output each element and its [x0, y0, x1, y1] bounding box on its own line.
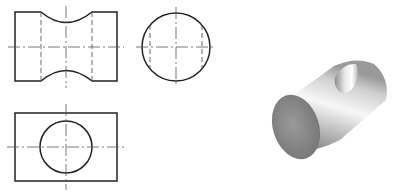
top-view	[7, 104, 125, 190]
side-view	[136, 7, 216, 87]
isometric-view	[264, 60, 387, 165]
technical-drawing	[0, 0, 395, 195]
front-view	[8, 6, 124, 88]
